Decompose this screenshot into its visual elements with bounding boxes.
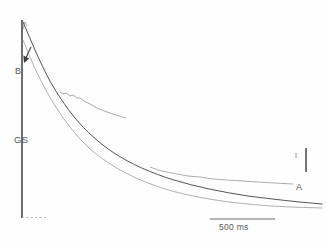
label-state-gs: GS bbox=[14, 134, 28, 145]
trace-noise-overlay bbox=[60, 92, 126, 118]
excitation-arrow bbox=[23, 47, 31, 63]
trace-noise-overlay-2 bbox=[150, 167, 293, 184]
label-state-b: B bbox=[15, 66, 21, 76]
horizontal-scale-label: 500 ms bbox=[219, 222, 249, 232]
figure-panel: B GS A I 500 ms bbox=[0, 0, 326, 245]
decay-plot bbox=[0, 0, 326, 245]
vertical-scale-label: I bbox=[295, 152, 297, 159]
label-state-a: A bbox=[296, 182, 302, 192]
decay-trace-curve bbox=[23, 22, 322, 204]
